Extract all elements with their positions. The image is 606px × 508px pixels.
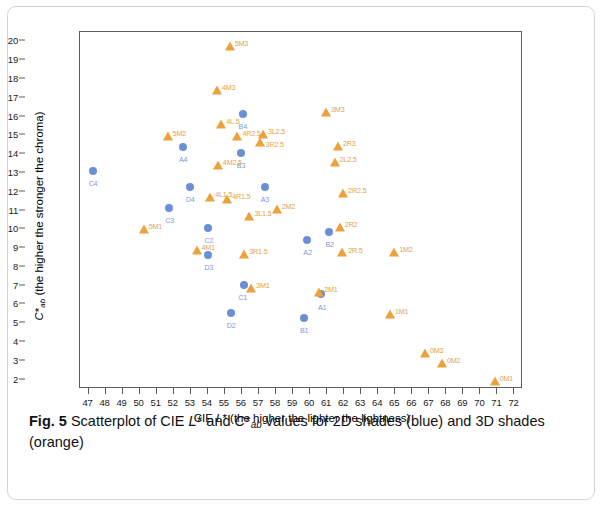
figure-card: C*ab (the higher the stronger the chroma…: [7, 6, 595, 500]
y-tick-label: 3: [13, 354, 18, 365]
point-marker-triangle: [437, 358, 447, 367]
data-point-label: C4: [89, 180, 98, 187]
data-point-label: B2: [325, 241, 333, 248]
point-marker-triangle: [385, 309, 395, 318]
x-tick-mark: [241, 388, 242, 394]
point-marker-triangle: [314, 288, 324, 297]
y-tick-mark: [19, 209, 25, 210]
y-tick-label: 4: [13, 336, 18, 347]
x-tick-mark: [326, 388, 327, 394]
x-tick-label: 55: [219, 397, 229, 408]
point-marker-triangle: [213, 161, 223, 170]
x-tick-label: 60: [304, 397, 314, 408]
y-tick-label: 18: [8, 72, 18, 83]
x-tick-mark: [411, 388, 412, 394]
point-marker-circle: [204, 224, 212, 232]
x-tick-mark: [105, 388, 106, 394]
x-tick-label: 65: [389, 397, 399, 408]
data-point-label: 4R1.5: [232, 193, 250, 200]
x-tick-mark: [88, 388, 89, 394]
point-marker-triangle: [163, 132, 173, 141]
data-point-label: 1M2: [399, 246, 412, 253]
data-point-label: 4L.5: [226, 118, 239, 125]
point-marker-circle: [237, 149, 245, 157]
y-tick-label: 11: [9, 204, 18, 215]
data-point-label: D4: [186, 196, 195, 203]
x-tick-mark: [156, 388, 157, 394]
data-point-label: 4M1: [202, 244, 215, 251]
y-axis-title: C*ab (the higher the stronger the chroma…: [33, 66, 47, 366]
x-tick-mark: [462, 388, 463, 394]
data-point-label: 5M1: [149, 223, 162, 230]
x-tick-label: 48: [99, 397, 109, 408]
data-point-label: B1: [300, 327, 308, 334]
point-marker-triangle: [333, 141, 343, 150]
x-tick-mark: [428, 388, 429, 394]
point-marker-triangle: [212, 86, 222, 95]
point-marker-triangle: [338, 189, 348, 198]
x-tick-label: 51: [151, 397, 161, 408]
data-point-label: A1: [318, 304, 326, 311]
point-marker-triangle: [216, 119, 226, 128]
x-tick-label: 58: [270, 397, 280, 408]
x-tick-label: 53: [185, 397, 195, 408]
y-tick-mark: [19, 228, 25, 229]
data-point-label: A2: [303, 249, 311, 256]
data-point-label: 2R.5: [348, 247, 362, 254]
point-marker-triangle: [244, 211, 254, 220]
x-tick-mark: [513, 388, 514, 394]
y-axis: C*ab (the higher the stronger the chroma…: [8, 7, 79, 407]
x-tick-mark: [258, 388, 259, 394]
y-tick-label: 7: [13, 279, 18, 290]
y-tick-mark: [19, 247, 25, 248]
data-point-label: 2R3: [343, 140, 356, 147]
y-tick-label: 17: [8, 91, 18, 102]
data-point-label: 2L2.5: [340, 156, 357, 163]
data-point-label: 3L2.5: [268, 128, 285, 135]
data-point-label: 2M1: [324, 286, 337, 293]
point-marker-triangle: [335, 223, 345, 232]
x-tick-label: 47: [82, 397, 92, 408]
x-tick-label: 68: [440, 397, 450, 408]
y-tick-label: 15: [8, 129, 18, 140]
point-marker-triangle: [330, 157, 340, 166]
data-point-label: 4M2.5: [223, 159, 242, 166]
data-point-label: 3R1.5: [249, 248, 267, 255]
x-tick-label: 70: [474, 397, 484, 408]
x-tick-label: 59: [287, 397, 297, 408]
data-point-label: 1M1: [395, 308, 408, 315]
y-tick-label: 10: [8, 223, 18, 234]
point-marker-circle: [239, 110, 247, 118]
x-tick-label: 71: [491, 397, 501, 408]
data-point-label: 0M1: [500, 375, 513, 382]
data-point-label: 2M2: [282, 203, 295, 210]
data-point-label: 2R2.5: [348, 187, 366, 194]
data-point-label: 3R2.5: [266, 141, 284, 148]
y-tick-mark: [19, 341, 25, 342]
point-marker-circle: [227, 309, 235, 317]
x-tick-mark: [479, 388, 480, 394]
x-tick-label: 64: [372, 397, 382, 408]
point-marker-triangle: [272, 204, 282, 213]
data-point-label: A4: [179, 156, 187, 163]
x-tick-label: 57: [253, 397, 263, 408]
y-tick-label: 6: [13, 298, 18, 309]
data-point-label: D2: [227, 322, 236, 329]
point-marker-triangle: [192, 245, 202, 254]
y-tick-label: 2: [13, 373, 18, 384]
x-tick-mark: [207, 388, 208, 394]
x-tick-label: 54: [202, 397, 212, 408]
point-marker-triangle: [246, 284, 256, 293]
data-point-label: C3: [165, 217, 174, 224]
y-tick-mark: [19, 134, 25, 135]
x-tick-mark: [360, 388, 361, 394]
x-tick-mark: [394, 388, 395, 394]
x-tick-label: 50: [134, 397, 144, 408]
x-tick-mark: [496, 388, 497, 394]
x-tick-mark: [445, 388, 446, 394]
point-marker-triangle: [389, 247, 399, 256]
point-marker-circle: [89, 167, 97, 175]
point-marker-circle: [303, 236, 311, 244]
data-point-label: C1: [238, 294, 247, 301]
x-tick-mark: [139, 388, 140, 394]
